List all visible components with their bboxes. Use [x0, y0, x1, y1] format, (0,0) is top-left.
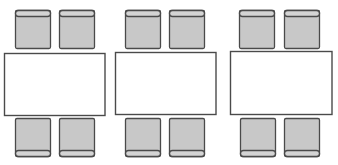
chair-backrest [241, 151, 276, 157]
chair-backrest [16, 151, 51, 157]
table [116, 53, 217, 115]
chair [16, 11, 51, 49]
chair [60, 119, 95, 157]
chair [126, 11, 161, 49]
chair [285, 119, 320, 157]
chair-backrest [60, 151, 95, 157]
chair-backrest [285, 151, 320, 157]
chair [170, 11, 205, 49]
chair [126, 119, 161, 157]
chair [241, 119, 276, 157]
table [231, 52, 333, 115]
chair [285, 11, 320, 49]
chair-backrest [126, 11, 161, 17]
seating-diagram [0, 0, 338, 165]
chair [60, 11, 95, 49]
chair [16, 119, 51, 157]
chair [240, 11, 275, 49]
chair-backrest [170, 151, 205, 157]
chair-backrest [60, 11, 95, 17]
table [5, 54, 106, 116]
chair-backrest [16, 11, 51, 17]
chair-backrest [170, 11, 205, 17]
chair-backrest [240, 11, 275, 17]
chair-backrest [126, 151, 161, 157]
chair [170, 119, 205, 157]
chair-backrest [285, 11, 320, 17]
